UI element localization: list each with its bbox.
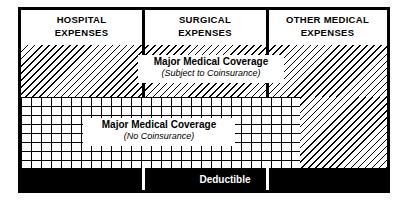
label-no-coinsurance: Major Medical Coverage (No Coinsurance) — [83, 118, 235, 146]
column-header-hospital: HOSPITAL EXPENSES — [21, 14, 142, 39]
label-coinsurance: Major Medical Coverage (Subject to Coins… — [138, 55, 284, 83]
column-divider-surgical-other — [266, 10, 269, 97]
coverage-diagram: HOSPITAL EXPENSES SURGICAL EXPENSES OTHE… — [0, 0, 407, 208]
label-coinsurance-title: Major Medical Coverage — [138, 56, 284, 68]
column-header-surgical: SURGICAL EXPENSES — [144, 14, 266, 39]
column-header-band: HOSPITAL EXPENSES SURGICAL EXPENSES OTHE… — [21, 10, 387, 45]
deductible-divider-hospital-surgical — [142, 168, 145, 190]
label-coinsurance-subtitle: (Subject to Coinsurance) — [138, 68, 284, 79]
label-no-coinsurance-title: Major Medical Coverage — [83, 119, 235, 131]
diagram-inner-area: HOSPITAL EXPENSES SURGICAL EXPENSES OTHE… — [21, 10, 387, 190]
label-deductible: Deductible — [163, 171, 287, 189]
column-header-other-medical: OTHER MEDICAL EXPENSES — [268, 14, 387, 39]
band-coinsurance-hatch-right-column — [300, 97, 387, 168]
column-divider-hospital-surgical — [142, 10, 145, 97]
label-no-coinsurance-subtitle: (No Coinsurance) — [83, 131, 235, 142]
